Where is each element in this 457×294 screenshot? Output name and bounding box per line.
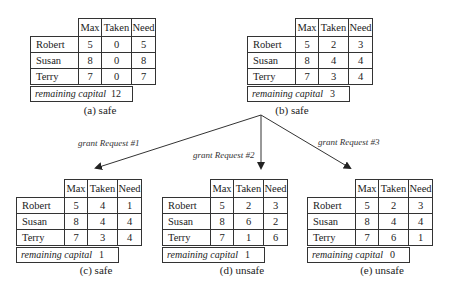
table-row: Robert541 (17, 198, 142, 214)
table-row: Terry734 (17, 230, 142, 246)
state-panel-a: Max Taken Need Robert505 Susan808 Terry7… (30, 18, 156, 85)
table-row: Robert505 (31, 37, 156, 53)
table-row: Robert523 (248, 37, 373, 53)
transition-label-2: grant Request #2 (193, 150, 255, 160)
state-table: Max Taken Need Robert523 Susan844 Terry7… (307, 179, 433, 246)
col-header-max: Max (79, 19, 102, 37)
state-table: Max Taken Need Robert523 Susan844 Terry7… (247, 18, 373, 85)
table-row: Terry734 (248, 69, 373, 85)
state-caption: (b) safe (262, 104, 322, 116)
col-header-taken: Taken (102, 19, 132, 37)
state-table: Max Taken Need Robert523 Susan862 Terry7… (162, 179, 288, 246)
table-row: Robert523 (163, 198, 288, 214)
table-row: Susan808 (31, 53, 156, 69)
table-row: Susan844 (308, 214, 433, 230)
transition-label-3: grant Request #3 (318, 137, 380, 147)
col-header-need: Need (132, 19, 156, 37)
state-caption: (a) safe (70, 104, 130, 116)
table-row: Susan844 (17, 214, 142, 230)
state-caption: (c) safe (66, 264, 126, 276)
transition-label-1: grant Request #1 (78, 138, 140, 148)
table-row: Susan862 (163, 214, 288, 230)
remaining-capital: remaining capital3 (247, 86, 350, 102)
table-row: Terry716 (163, 230, 288, 246)
state-panel-e: Max Taken Need Robert523 Susan844 Terry7… (307, 179, 433, 246)
table-row: Robert523 (308, 198, 433, 214)
table-row: Susan844 (248, 53, 373, 69)
state-caption: (e) unsafe (347, 264, 417, 276)
state-panel-d: Max Taken Need Robert523 Susan862 Terry7… (162, 179, 288, 246)
state-table: Max Taken Need Robert505 Susan808 Terry7… (30, 18, 156, 85)
remaining-capital: remaining capital12 (30, 86, 133, 102)
state-caption: (d) unsafe (207, 264, 277, 276)
remaining-capital: remaining capital1 (16, 247, 119, 263)
state-panel-b: Max Taken Need Robert523 Susan844 Terry7… (247, 18, 373, 85)
state-table: Max Taken Need Robert541 Susan844 Terry7… (16, 179, 142, 246)
remaining-capital: remaining capital1 (162, 247, 265, 263)
remaining-capital: remaining capital0 (307, 247, 410, 263)
table-row: Terry707 (31, 69, 156, 85)
state-panel-c: Max Taken Need Robert541 Susan844 Terry7… (16, 179, 142, 246)
table-row: Terry761 (308, 230, 433, 246)
